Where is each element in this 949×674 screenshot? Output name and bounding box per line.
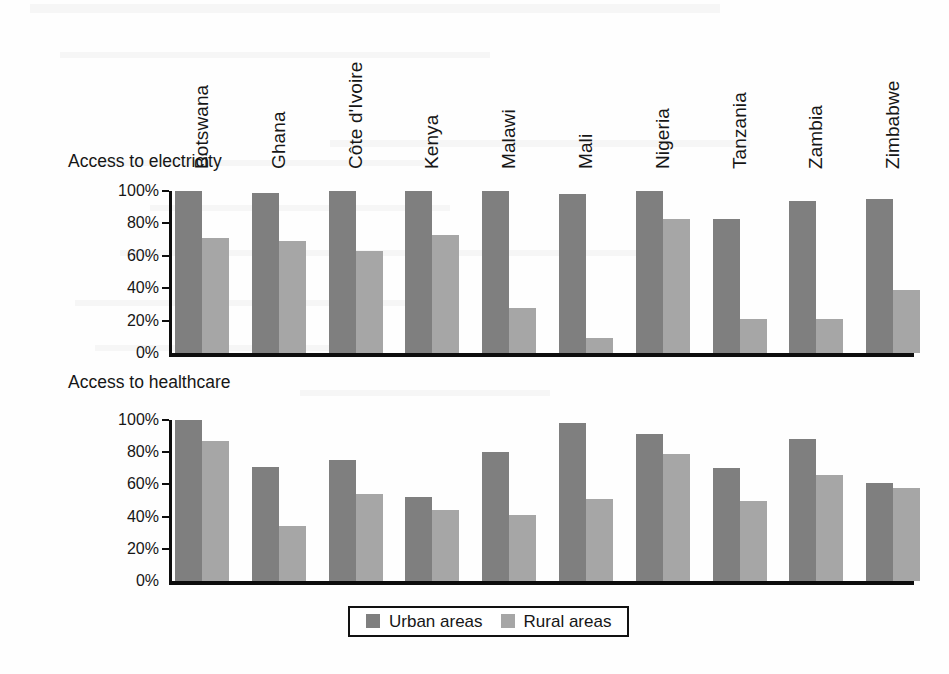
bar-urban-botswana <box>175 420 202 581</box>
bar-urban-nigeria <box>636 191 663 353</box>
legend-entry-rural: Rural areas <box>501 613 612 630</box>
y-axis-tick-label: 60% <box>83 476 159 492</box>
bar-rural-kenya <box>432 510 459 581</box>
y-axis-tick-label: 100% <box>83 412 159 428</box>
bar-rural-malawi <box>509 308 536 353</box>
bar-urban-mali <box>559 194 586 353</box>
y-axis-tick-label: 40% <box>83 509 159 525</box>
country-label-kenya: Kenya <box>422 115 441 169</box>
bar-urban-kenya <box>405 497 432 581</box>
bar-urban-malawi <box>482 452 509 581</box>
legend-label: Rural areas <box>524 613 612 630</box>
bar-urban-tanzania <box>713 219 740 353</box>
bar-urban-c-te-d-ivoire <box>329 191 356 353</box>
country-label-ghana: Ghana <box>269 111 288 169</box>
bar-urban-zimbabwe <box>866 483 893 581</box>
y-axis-tick <box>162 255 169 257</box>
y-axis-tick-label: 80% <box>83 215 159 231</box>
y-axis-tick-label: 0% <box>83 345 159 361</box>
y-axis-tick <box>162 222 169 224</box>
bar-rural-zambia <box>816 319 843 353</box>
grouped-bar-chart-figure: BotswanaGhanaCôte d'IvoireKenyaMalawiMal… <box>0 0 949 674</box>
bar-urban-malawi <box>482 191 509 353</box>
country-label-tanzania: Tanzania <box>730 92 749 169</box>
legend-label: Urban areas <box>389 613 483 630</box>
y-axis-tick-label: 20% <box>83 313 159 329</box>
plot-title: Access to electricity <box>68 151 222 172</box>
plot-title: Access to healthcare <box>68 372 230 393</box>
y-axis-tick <box>162 516 169 518</box>
legend-swatch-icon <box>501 614 515 628</box>
y-axis-tick-label: 60% <box>83 248 159 264</box>
bar-rural-botswana <box>202 238 229 353</box>
y-axis-tick <box>162 320 169 322</box>
bar-rural-ghana <box>279 241 306 353</box>
bar-urban-ghana <box>252 467 279 581</box>
y-axis-tick-label: 80% <box>83 444 159 460</box>
bar-urban-c-te-d-ivoire <box>329 460 356 581</box>
bar-urban-nigeria <box>636 434 663 581</box>
x-axis-line <box>169 581 914 585</box>
y-axis-tick <box>162 548 169 550</box>
bar-urban-zimbabwe <box>866 199 893 353</box>
bar-rural-zambia <box>816 475 843 581</box>
country-label-c-te-d-ivoire: Côte d'Ivoire <box>346 62 365 169</box>
country-label-malawi: Malawi <box>499 109 518 169</box>
bar-rural-zimbabwe <box>893 488 920 581</box>
bar-urban-botswana <box>175 191 202 353</box>
bar-urban-kenya <box>405 191 432 353</box>
bar-rural-kenya <box>432 235 459 353</box>
y-axis-tick <box>162 190 169 192</box>
bar-rural-nigeria <box>663 454 690 581</box>
bar-rural-mali <box>586 499 613 581</box>
bar-urban-zambia <box>789 201 816 353</box>
y-axis-tick <box>162 287 169 289</box>
bar-rural-c-te-d-ivoire <box>356 251 383 353</box>
y-axis-tick-label: 100% <box>83 183 159 199</box>
bar-rural-mali <box>586 338 613 353</box>
bar-rural-botswana <box>202 441 229 581</box>
country-label-zambia: Zambia <box>806 105 825 169</box>
bar-rural-c-te-d-ivoire <box>356 494 383 581</box>
country-label-zimbabwe: Zimbabwe <box>883 81 902 169</box>
country-label-nigeria: Nigeria <box>653 108 672 169</box>
y-axis-tick-label: 0% <box>83 573 159 589</box>
chart-legend: Urban areasRural areas <box>348 606 629 637</box>
category-axis-labels: BotswanaGhanaCôte d'IvoireKenyaMalawiMal… <box>0 0 949 175</box>
legend-swatch-icon <box>366 614 380 628</box>
x-axis-line <box>169 353 914 357</box>
bar-rural-zimbabwe <box>893 290 920 353</box>
legend-entry-urban: Urban areas <box>366 613 483 630</box>
bar-urban-mali <box>559 423 586 581</box>
bar-urban-tanzania <box>713 468 740 581</box>
bar-rural-tanzania <box>740 501 767 582</box>
bar-rural-tanzania <box>740 319 767 353</box>
bar-rural-nigeria <box>663 219 690 353</box>
y-axis-tick-label: 20% <box>83 541 159 557</box>
y-axis-tick-label: 40% <box>83 280 159 296</box>
y-axis-tick <box>162 483 169 485</box>
bar-rural-ghana <box>279 526 306 581</box>
bar-rural-malawi <box>509 515 536 581</box>
country-label-mali: Mali <box>576 134 595 169</box>
y-axis-line <box>169 420 172 583</box>
bar-urban-ghana <box>252 193 279 353</box>
y-axis-line <box>169 191 172 355</box>
y-axis-tick <box>162 451 169 453</box>
y-axis-tick <box>162 419 169 421</box>
bar-urban-zambia <box>789 439 816 581</box>
